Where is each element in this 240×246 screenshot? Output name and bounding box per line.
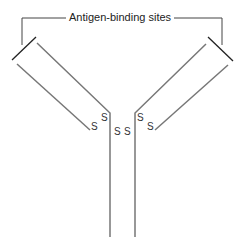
left-heavy-chain <box>37 43 110 237</box>
disulfide-s: S <box>91 122 98 132</box>
left-binding-site-cap <box>12 37 36 60</box>
disulfide-s: S <box>137 113 144 123</box>
antigen-binding-sites-label: Antigen-binding sites <box>0 11 240 23</box>
antibody-diagram <box>0 0 240 246</box>
left-light-chain <box>17 64 90 130</box>
disulfide-s: S <box>114 127 121 137</box>
disulfide-s: S <box>101 113 108 123</box>
right-light-chain <box>155 65 228 130</box>
disulfide-s: S <box>124 127 131 137</box>
disulfide-s: S <box>147 122 154 132</box>
right-binding-site-cap <box>208 37 233 61</box>
right-heavy-chain <box>135 44 206 237</box>
